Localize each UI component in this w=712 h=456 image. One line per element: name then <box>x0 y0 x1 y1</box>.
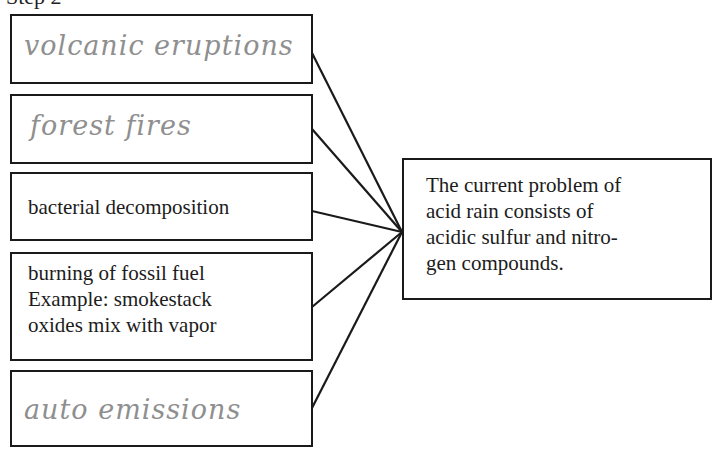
connector-fossil <box>312 232 402 307</box>
cause-text: volcanic eruptions <box>24 30 294 61</box>
connector-auto <box>312 232 402 408</box>
result-line: acid rain consists of <box>426 198 696 224</box>
cause-text: bacterial decomposition <box>28 194 229 220</box>
cause-line: burning of fossil fuel <box>28 260 216 286</box>
cause-line: Example: smokestack <box>28 286 216 312</box>
result-box-acid-rain: The current problem of acid rain consist… <box>402 158 712 300</box>
cause-box-bacterial: bacterial decomposition <box>10 172 313 241</box>
result-line: The current problem of <box>426 172 696 198</box>
cause-box-auto-emissions: auto emissions <box>10 370 313 447</box>
result-line: acidic sulfur and nitro- <box>426 224 696 250</box>
result-text-block: The current problem of acid rain consist… <box>426 172 696 276</box>
cause-text: forest fires <box>30 110 192 141</box>
cause-box-fossil-fuel: burning of fossil fuel Example: smokesta… <box>10 252 313 361</box>
connector-volcanic <box>312 53 402 232</box>
cause-box-volcanic: volcanic eruptions <box>10 14 313 84</box>
result-line: gen compounds. <box>426 250 696 276</box>
cause-box-forest-fires: forest fires <box>10 94 313 164</box>
connector-bacterial <box>312 211 402 232</box>
cause-text-block: burning of fossil fuel Example: smokesta… <box>28 260 216 338</box>
cause-line: oxides mix with vapor <box>28 312 216 338</box>
cause-text: auto emissions <box>24 394 241 425</box>
